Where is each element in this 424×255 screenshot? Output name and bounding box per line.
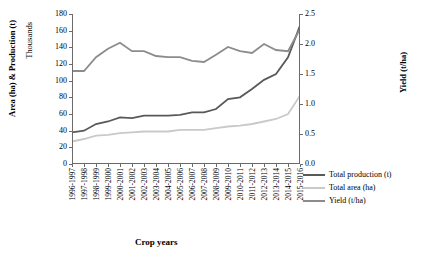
y-tick-right: 0.0 bbox=[305, 159, 329, 168]
y-tick-mark-right bbox=[300, 14, 303, 15]
x-tick-mark bbox=[288, 164, 289, 167]
x-tick-mark bbox=[240, 164, 241, 167]
x-tick-mark bbox=[276, 164, 277, 167]
y-tick-mark-right bbox=[300, 134, 303, 135]
x-tick-mark bbox=[168, 164, 169, 167]
y-axis-right-title: Yield (t/ha) bbox=[398, 52, 408, 93]
x-tick-label: 2014-2015 bbox=[284, 168, 293, 201]
y-tick-left: 60 bbox=[45, 109, 67, 118]
legend-swatch bbox=[303, 187, 325, 189]
x-axis-title: Crop years bbox=[135, 237, 178, 247]
x-tick-label: 2008-2009 bbox=[212, 168, 221, 201]
x-tick-mark bbox=[108, 164, 109, 167]
plot-frame bbox=[72, 14, 300, 164]
x-tick-label: 2012-2013 bbox=[260, 168, 269, 201]
y-tick-left: 40 bbox=[45, 126, 67, 135]
y-tick-left: 140 bbox=[45, 42, 67, 51]
x-tick-label: 2005-2006 bbox=[176, 168, 185, 201]
x-tick-mark bbox=[216, 164, 217, 167]
x-tick-mark bbox=[180, 164, 181, 167]
y-tick-right: 2.0 bbox=[305, 39, 329, 48]
x-tick-mark bbox=[84, 164, 85, 167]
x-tick-label: 2010-2011 bbox=[236, 168, 245, 200]
legend-label: Yield (t/ha) bbox=[329, 196, 366, 205]
x-tick-label: 2004-2005 bbox=[164, 168, 173, 201]
legend-swatch bbox=[303, 174, 325, 176]
x-tick-mark bbox=[264, 164, 265, 167]
x-tick-mark bbox=[156, 164, 157, 167]
y-axis-left-title: Area (ha) & Production (t) bbox=[7, 20, 21, 117]
y-tick-mark-right bbox=[300, 104, 303, 105]
x-tick-label: 1999-2000 bbox=[104, 168, 113, 201]
x-tick-mark bbox=[204, 164, 205, 167]
x-tick-mark bbox=[228, 164, 229, 167]
chart-legend: Total production (t)Total area (ha)Yield… bbox=[303, 168, 392, 207]
y-tick-right: 1.0 bbox=[305, 99, 329, 108]
plot-area bbox=[72, 14, 300, 164]
y-tick-left: 0 bbox=[45, 159, 67, 168]
legend-label: Total production (t) bbox=[329, 170, 392, 179]
x-tick-label: 1997-1998 bbox=[80, 168, 89, 201]
y-axis-left-units-label: Thousands bbox=[24, 22, 34, 59]
y-tick-left: 180 bbox=[45, 9, 67, 18]
x-tick-mark bbox=[120, 164, 121, 167]
y-tick-right: 2.5 bbox=[305, 9, 329, 18]
legend-item: Total area (ha) bbox=[303, 181, 392, 194]
x-tick-mark bbox=[132, 164, 133, 167]
x-tick-mark bbox=[144, 164, 145, 167]
legend-swatch bbox=[303, 200, 325, 202]
x-tick-label: 2002-2003 bbox=[140, 168, 149, 201]
x-tick-label: 2009-2010 bbox=[224, 168, 233, 201]
x-tick-label: 2013-2014 bbox=[272, 168, 281, 201]
x-tick-label: 2007-2008 bbox=[200, 168, 209, 201]
legend-label: Total area (ha) bbox=[329, 183, 376, 192]
x-tick-mark bbox=[300, 164, 301, 167]
x-tick-mark bbox=[192, 164, 193, 167]
y-tick-mark-right bbox=[300, 44, 303, 45]
x-tick-mark bbox=[96, 164, 97, 167]
y-tick-left: 120 bbox=[45, 59, 67, 68]
x-tick-label: 2006-2007 bbox=[188, 168, 197, 201]
x-tick-label: 2003-2004 bbox=[152, 168, 161, 201]
y-tick-right: 0.5 bbox=[305, 129, 329, 138]
y-tick-left: 100 bbox=[45, 76, 67, 85]
x-tick-mark bbox=[72, 164, 73, 167]
x-tick-label: 1998-1999 bbox=[92, 168, 101, 201]
y-tick-left: 160 bbox=[45, 26, 67, 35]
y-tick-left: 80 bbox=[45, 92, 67, 101]
legend-item: Yield (t/ha) bbox=[303, 194, 392, 207]
chart-figure: Area (ha) & Production (t) Thousands Yie… bbox=[0, 0, 424, 255]
y-tick-left: 20 bbox=[45, 142, 67, 151]
y-tick-mark-right bbox=[300, 74, 303, 75]
x-tick-label: 2001-2002 bbox=[128, 168, 137, 201]
x-tick-label: 1996-1997 bbox=[68, 168, 77, 201]
x-tick-label: 2000-2001 bbox=[116, 168, 125, 201]
x-tick-label: 2011-2012 bbox=[248, 168, 257, 200]
x-tick-mark bbox=[252, 164, 253, 167]
y-tick-right: 1.5 bbox=[305, 69, 329, 78]
legend-item: Total production (t) bbox=[303, 168, 392, 181]
